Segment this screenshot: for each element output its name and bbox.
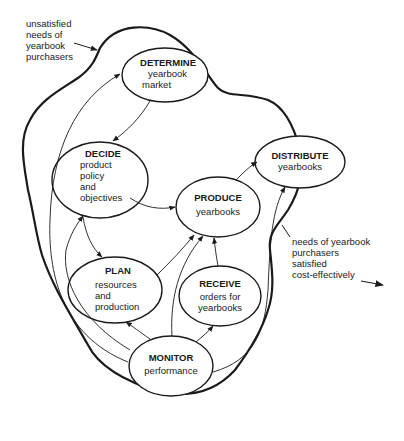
node-title: PRODUCE	[182, 192, 254, 203]
annot-line: purchasers	[26, 51, 73, 62]
node-line: yearbooks	[184, 302, 256, 313]
node-line: yearbooks	[260, 161, 340, 172]
annot-line: cost-effectively	[292, 269, 370, 280]
edge-decide-plan	[83, 217, 102, 257]
edge-monitor-plan	[126, 322, 150, 339]
output-leader	[282, 225, 290, 237]
node-title: RECEIVE	[184, 278, 256, 289]
node-distribute: DISTRIBUTE yearbooks	[260, 150, 340, 172]
node-line: policy	[80, 170, 150, 181]
node-plan: PLAN resources and production	[95, 265, 165, 312]
node-title: DISTRIBUTE	[260, 150, 340, 161]
output-arrow	[361, 281, 383, 285]
annot-line: satisfied	[292, 258, 370, 269]
node-line: product	[80, 159, 150, 170]
node-line: objectives	[80, 192, 150, 203]
annot-line: needs of yearbook	[292, 236, 370, 247]
edge-receive-produce	[214, 238, 218, 266]
node-decide: DECIDE product policy and objectives	[80, 148, 150, 203]
node-line: yearbook	[142, 68, 206, 79]
node-line: performance	[134, 365, 208, 376]
node-line: market	[142, 79, 206, 90]
annot-line: purchasers	[292, 247, 370, 258]
input-arrow	[74, 43, 97, 50]
label-satisfied-needs: needs of yearbook purchasers satisfied c…	[292, 236, 370, 280]
node-line: yearbooks	[182, 206, 254, 217]
edge-produce-distribute	[236, 162, 257, 180]
edge-monitor-receive	[196, 326, 213, 342]
node-line: and	[80, 181, 150, 192]
node-line: and	[95, 290, 165, 301]
node-title: PLAN	[95, 265, 165, 276]
node-line: resources	[95, 279, 165, 290]
node-line: production	[95, 301, 165, 312]
edge-determine-decide	[113, 101, 150, 141]
node-line: orders for	[184, 291, 256, 302]
annot-line: yearbook	[26, 40, 73, 51]
annot-line: unsatisfied	[26, 18, 73, 29]
label-unsatisfied-needs: unsatisfied needs of yearbook purchasers	[26, 18, 73, 62]
node-title: MONITOR	[134, 352, 208, 363]
node-title: DETERMINE	[130, 57, 206, 68]
annot-line: needs of	[26, 29, 73, 40]
node-produce: PRODUCE yearbooks	[182, 192, 254, 217]
node-receive: RECEIVE orders for yearbooks	[184, 278, 256, 313]
node-monitor: MONITOR performance	[134, 352, 208, 376]
node-determine: DETERMINE yearbook market	[130, 57, 206, 90]
node-title: DECIDE	[80, 148, 150, 159]
